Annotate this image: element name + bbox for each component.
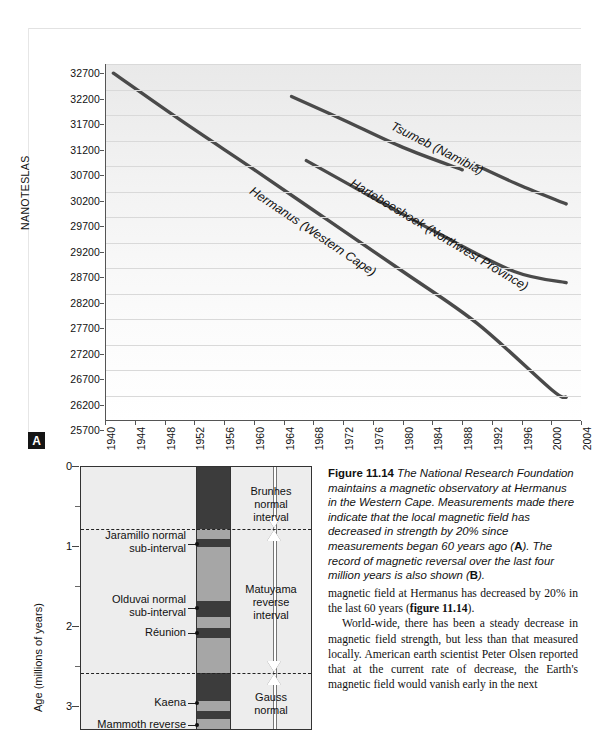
- epoch-label: Matuyamareverseinterval: [231, 583, 311, 622]
- epoch-boundary: [81, 673, 311, 674]
- y-tick-label: 27700: [70, 322, 100, 334]
- polarity-band-normal: [197, 539, 230, 547]
- sub-interval-label-line: Mammoth reverse: [81, 718, 186, 730]
- polarity-band-normal: [197, 628, 230, 638]
- y-tick-mark: [100, 354, 104, 355]
- leader-dot: [195, 606, 199, 610]
- sub-interval-label-line: Réunion: [81, 626, 186, 639]
- series-line: [477, 166, 566, 204]
- sub-interval-label-line: sub-interval: [81, 542, 186, 555]
- gridline: [106, 90, 581, 91]
- panel-a-line-chart: 2570026200267002720027700282002870029200…: [28, 55, 581, 435]
- x-tick-mark: [403, 421, 404, 425]
- y-tick-label: 26700: [70, 373, 100, 385]
- y-tick-label: 29200: [70, 246, 100, 258]
- epoch-name-line: interval: [231, 511, 311, 524]
- sub-interval-label: Mammoth reverse: [81, 718, 186, 730]
- series-line: [306, 161, 566, 283]
- x-tick-label: 1972: [343, 427, 355, 450]
- y-tick-label: 31700: [70, 118, 100, 130]
- epoch-label: Gaussnormal: [231, 691, 311, 717]
- polarity-band-reverse: [197, 701, 230, 711]
- x-tick-label: 1952: [194, 427, 206, 450]
- x-tick-label: 1968: [313, 427, 325, 450]
- body-paragraph-2: World-wide, there has been a steady decr…: [328, 616, 578, 692]
- y-tick-mark: [100, 430, 104, 431]
- series-line: [113, 73, 566, 397]
- epoch-arrow-up: [267, 530, 281, 541]
- panel-b-plot-area: BrunhesnormalintervalMatuyamareverseinte…: [80, 466, 312, 730]
- x-tick-mark: [343, 421, 344, 425]
- y-tick-mark: [100, 405, 104, 406]
- panel-b-tick-mark: [72, 706, 79, 707]
- panel-b-polarity-timescale: 0123 Age (millions of years) Brunhesnorm…: [28, 462, 313, 730]
- y-tick-mark: [100, 226, 104, 227]
- epoch-name-line: Brunhes: [231, 485, 311, 498]
- caption-figure-number: Figure 11.14: [328, 467, 394, 479]
- gridline: [106, 64, 581, 65]
- panel-b-axis-title: Age (millions of years): [32, 603, 44, 712]
- x-tick-label: 1976: [373, 427, 385, 450]
- x-tick-mark: [194, 421, 195, 425]
- sub-interval-label: Réunion: [81, 626, 186, 639]
- y-axis-tick-labels: 2570026200267002720027700282002870029200…: [28, 64, 100, 421]
- epoch-name-line: normal: [231, 498, 311, 511]
- y-tick-label: 29700: [70, 220, 100, 232]
- polarity-band-normal: [197, 467, 230, 529]
- polarity-band-normal: [197, 601, 230, 617]
- y-tick-label: 32200: [70, 93, 100, 105]
- gridline: [106, 141, 581, 142]
- y-tick-label: 30700: [70, 169, 100, 181]
- x-tick-label: 1948: [165, 427, 177, 450]
- panel-b-tick-mark: [72, 546, 79, 547]
- gridline: [106, 115, 581, 116]
- gridline: [106, 192, 581, 193]
- polarity-band-reverse: [197, 617, 230, 628]
- x-tick-mark: [105, 421, 106, 425]
- caption-ref-b: B: [470, 569, 478, 581]
- gridline: [106, 370, 581, 371]
- x-tick-label: 2004: [581, 427, 593, 450]
- x-tick-label: 1996: [522, 427, 534, 450]
- x-tick-mark: [432, 421, 433, 425]
- y-tick-mark: [100, 175, 104, 176]
- x-tick-label: 1980: [403, 427, 415, 450]
- y-tick-mark: [100, 277, 104, 278]
- epoch-name-line: reverse: [231, 596, 311, 609]
- y-tick-mark: [100, 328, 104, 329]
- x-tick-label: 1964: [284, 427, 296, 450]
- polarity-band-reverse: [197, 719, 230, 730]
- leader-dot: [195, 701, 199, 705]
- body-p1-figref: figure 11.14: [410, 602, 468, 615]
- x-tick-label: 1988: [462, 427, 474, 450]
- panel-b-tick-mark: [72, 466, 79, 467]
- leader-dot: [195, 542, 199, 546]
- epoch-name-line: normal: [231, 704, 311, 717]
- y-tick-mark: [100, 303, 104, 304]
- x-tick-mark: [522, 421, 523, 425]
- gridline: [106, 345, 581, 346]
- x-tick-mark: [492, 421, 493, 425]
- x-tick-mark: [462, 421, 463, 425]
- y-tick-mark: [100, 124, 104, 125]
- x-tick-label: 1960: [254, 427, 266, 450]
- epoch-arrow-down: [267, 661, 281, 672]
- y-tick-mark: [100, 150, 104, 151]
- y-tick-mark: [100, 99, 104, 100]
- page-top-rule: [28, 28, 581, 29]
- x-tick-label: 1984: [432, 427, 444, 450]
- x-tick-mark: [373, 421, 374, 425]
- y-tick-label: 28200: [70, 297, 100, 309]
- x-tick-mark: [284, 421, 285, 425]
- y-tick-label: 32700: [70, 67, 100, 79]
- sub-interval-label-line: sub-interval: [81, 606, 186, 619]
- sub-interval-label: Kaena: [81, 696, 186, 709]
- leader-dot: [195, 723, 199, 727]
- y-tick-label: 28700: [70, 271, 100, 283]
- polarity-band-normal: [197, 673, 230, 700]
- epoch-name-line: Matuyama: [231, 583, 311, 596]
- gridline: [106, 166, 581, 167]
- x-tick-mark: [165, 421, 166, 425]
- x-tick-label: 1992: [492, 427, 504, 450]
- y-tick-mark: [100, 379, 104, 380]
